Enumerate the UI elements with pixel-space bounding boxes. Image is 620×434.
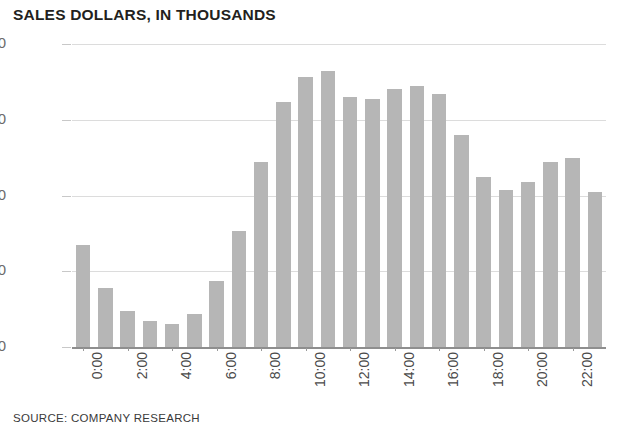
- bar: [387, 89, 402, 347]
- bars-group: [72, 44, 606, 347]
- y-tick-mark: [62, 347, 71, 348]
- x-tick-label: 16:00: [445, 352, 461, 387]
- bar: [209, 281, 224, 347]
- y-tick-label: 400: [0, 186, 6, 203]
- bar: [432, 94, 447, 347]
- bar: [476, 177, 491, 347]
- y-tick-label: 200: [0, 261, 6, 278]
- bar: [143, 321, 158, 347]
- x-tick-label: 18:00: [490, 352, 506, 387]
- x-tick-label: 6:00: [223, 352, 239, 379]
- x-tick-mark: [172, 348, 173, 351]
- x-tick-label: 8:00: [267, 352, 283, 379]
- y-tick-label: $800: [0, 34, 6, 51]
- sales-by-hour-bar-chart: SALES DOLLARS, IN THOUSANDS 0200400600$8…: [0, 0, 620, 434]
- x-axis-ticks: 0:002:004:006:008:0010:0012:0014:0016:00…: [72, 348, 606, 404]
- x-tick-label: 4:00: [178, 352, 194, 379]
- bar: [521, 182, 536, 347]
- bar: [120, 311, 135, 347]
- bar: [76, 245, 91, 347]
- x-tick-label: 12:00: [356, 352, 372, 387]
- x-tick-label: 2:00: [134, 352, 150, 379]
- x-tick-mark: [306, 348, 307, 351]
- y-tick-label: 600: [0, 110, 6, 127]
- x-tick-label: 0:00: [89, 352, 105, 379]
- y-tick-mark: [62, 271, 71, 272]
- bar: [410, 86, 425, 347]
- x-tick-label: 10:00: [312, 352, 328, 387]
- y-tick-mark: [62, 120, 71, 121]
- bar: [165, 324, 180, 347]
- y-tick-label: 0: [0, 337, 6, 354]
- bar: [543, 162, 558, 347]
- x-tick-mark: [128, 348, 129, 351]
- x-tick-mark: [261, 348, 262, 351]
- bar: [298, 77, 313, 347]
- chart-title: SALES DOLLARS, IN THOUSANDS: [13, 6, 276, 24]
- bar: [187, 314, 202, 347]
- bar: [98, 288, 113, 347]
- x-tick-mark: [439, 348, 440, 351]
- x-tick-mark: [573, 348, 574, 351]
- x-tick-mark: [350, 348, 351, 351]
- x-tick-mark: [395, 348, 396, 351]
- bar: [365, 99, 380, 347]
- x-tick-label: 14:00: [401, 352, 417, 387]
- x-tick-mark: [528, 348, 529, 351]
- bar: [343, 97, 358, 347]
- bar: [588, 192, 603, 347]
- bar: [321, 71, 336, 347]
- bar: [232, 231, 247, 347]
- bar: [565, 158, 580, 347]
- x-tick-label: 22:00: [579, 352, 595, 387]
- x-tick-label: 20:00: [534, 352, 550, 387]
- y-tick-mark: [62, 196, 71, 197]
- source-note: SOURCE: COMPANY RESEARCH: [13, 412, 200, 424]
- x-tick-mark: [83, 348, 84, 351]
- bar: [276, 102, 291, 347]
- bar: [454, 135, 469, 347]
- x-tick-mark: [484, 348, 485, 351]
- bar: [499, 190, 514, 347]
- bar: [254, 162, 269, 347]
- x-tick-mark: [217, 348, 218, 351]
- y-tick-mark: [62, 44, 71, 45]
